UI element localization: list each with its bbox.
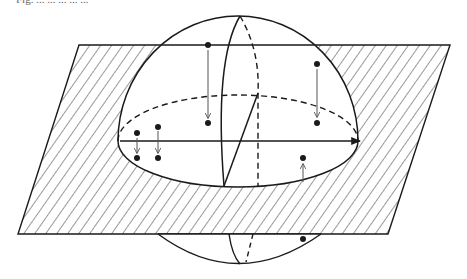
- hatched-plane: [18, 16, 450, 234]
- point-left-2-projection: [155, 155, 161, 161]
- point-upper-right: [314, 61, 320, 67]
- point-upper-left: [205, 42, 211, 48]
- point-left-1-projection: [134, 155, 140, 161]
- point-left-2: [155, 124, 161, 130]
- point-upper-right-projection: [314, 120, 320, 126]
- sphere-plane-diagram: [0, 0, 467, 279]
- point-below-plane: [300, 236, 306, 242]
- lower-sphere-cap: [62, 232, 321, 263]
- point-upper-left-projection: [205, 120, 211, 126]
- point-left-1: [134, 130, 140, 136]
- point-right-lower: [300, 155, 306, 161]
